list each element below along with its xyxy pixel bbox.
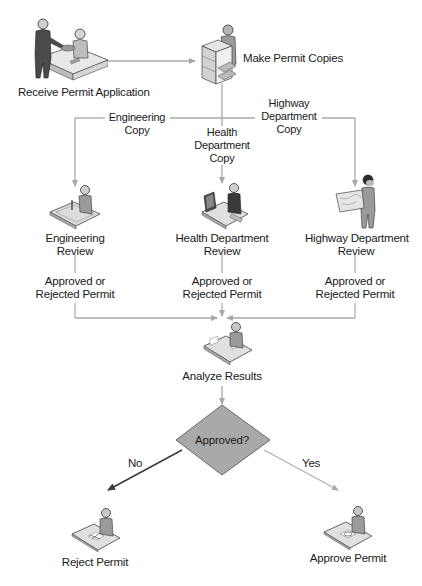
desk-worker-icon <box>202 322 254 366</box>
node-label-health-review: Health Department Review <box>172 232 272 258</box>
permit-workflow-diagram: Receive Permit Application Make Permit C… <box>0 0 422 586</box>
node-label-highway-review: Highway Department Review <box>305 232 407 258</box>
clerk-desk-icon <box>18 18 108 82</box>
edge-label-health-result: Approved or Rejected Permit <box>177 275 267 301</box>
surveyor-map-icon <box>334 172 382 230</box>
edge-no <box>108 450 182 490</box>
drafting-table-icon <box>48 184 104 230</box>
copier-icon <box>200 24 242 86</box>
node-label-engineering-review: Engineering Review <box>30 232 120 258</box>
edge-label-yes: Yes <box>302 457 320 470</box>
node-label-reject: Reject Permit <box>50 556 140 569</box>
node-label-copies: Make Permit Copies <box>243 52 343 65</box>
decision-label: Approved? <box>182 434 262 447</box>
edge-label-highway-result: Approved or Rejected Permit <box>310 275 400 301</box>
reject-desk-icon <box>70 508 122 552</box>
node-label-approve: Approve Permit <box>300 552 396 565</box>
approve-desk-icon <box>322 506 374 550</box>
node-label-analyze: Analyze Results <box>172 370 272 383</box>
edge-label-no: No <box>128 457 142 470</box>
edge-label-health-copy: Health Department Copy <box>192 126 252 165</box>
computer-workstation-icon <box>198 182 250 230</box>
edge-label-engineering-copy: Engineering Copy <box>104 111 170 137</box>
edge-label-eng-result: Approved or Rejected Permit <box>30 275 120 301</box>
node-label-receive: Receive Permit Application <box>18 86 150 99</box>
edge-yes <box>264 450 338 490</box>
edge-label-highway-copy: Highway Department Copy <box>256 97 322 136</box>
